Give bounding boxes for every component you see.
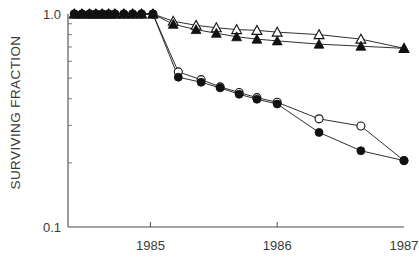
data-point-filled-circle <box>111 10 119 18</box>
data-point-filled-circle <box>253 95 261 103</box>
y-axis-title: SURVIVING FRACTION <box>8 36 23 190</box>
data-point-filled-circle <box>273 100 281 108</box>
x-axis-tick-label: 1986 <box>263 238 292 253</box>
data-point-filled-circle <box>315 128 323 136</box>
data-point-open-circle <box>315 115 323 123</box>
data-point-filled-circle <box>357 147 365 155</box>
data-point-filled-circle <box>400 157 408 165</box>
data-point-filled-circle <box>235 90 243 98</box>
axis-labels: 1.00.1198519861987SURVIVING FRACTION <box>8 7 418 253</box>
y-axis-tick-label: 0.1 <box>43 220 61 235</box>
data-point-filled-circle <box>149 10 157 18</box>
data-point-filled-circle <box>129 10 137 18</box>
data-point-filled-circle <box>78 10 86 18</box>
data-point-open-circle <box>357 122 365 130</box>
x-axis-tick-label: 1985 <box>136 238 165 253</box>
data-point-filled-circle <box>70 10 78 18</box>
data-point-filled-circle <box>197 78 205 86</box>
data-point-filled-circle <box>120 10 128 18</box>
data-point-filled-circle <box>138 10 146 18</box>
surviving-fraction-plot: 1.00.1198519861987SURVIVING FRACTION <box>0 0 419 272</box>
data-point-filled-circle <box>174 73 182 81</box>
data-point-filled-circle <box>216 84 224 92</box>
chart-container: 1.00.1198519861987SURVIVING FRACTION <box>0 0 419 272</box>
y-axis-tick-label: 1.0 <box>43 7 61 22</box>
x-axis-tick-label: 1987 <box>390 238 419 253</box>
data-series <box>69 9 408 164</box>
